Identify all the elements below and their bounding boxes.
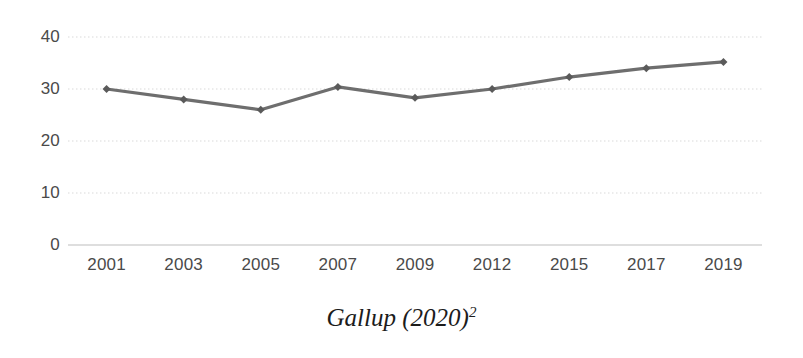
y-axis-tick-label: 30 — [14, 80, 60, 97]
x-axis-tick-label: 2019 — [688, 256, 758, 273]
data-markers-group — [103, 58, 728, 114]
x-axis-tick-label: 2017 — [611, 256, 681, 273]
chart-plot-area — [0, 0, 803, 296]
y-axis-tick-label: 20 — [14, 132, 60, 149]
y-axis-tick-labels: 010203040 — [8, 0, 60, 296]
y-axis-tick-label: 10 — [14, 184, 60, 201]
caption-superscript: 2 — [469, 304, 477, 320]
data-point-marker — [719, 58, 727, 66]
x-axis-tick-labels: 200120032005200720092012201520172019 — [0, 256, 803, 286]
caption-text: Gallup (2020) — [327, 304, 469, 331]
x-axis-tick-label: 2001 — [72, 256, 142, 273]
data-line-group — [107, 62, 724, 110]
data-point-marker — [257, 106, 265, 114]
x-axis-tick-label: 2007 — [303, 256, 373, 273]
x-axis-tick-label: 2005 — [226, 256, 296, 273]
data-point-marker — [334, 83, 342, 91]
data-point-marker — [103, 85, 111, 93]
x-axis-tick-label: 2012 — [457, 256, 527, 273]
line-chart-svg — [0, 0, 803, 296]
x-axis-tick-label: 2009 — [380, 256, 450, 273]
data-point-marker — [411, 94, 419, 102]
x-axis-tick-label: 2003 — [149, 256, 219, 273]
chart-figure: 010203040 200120032005200720092012201520… — [0, 0, 803, 358]
y-axis-tick-label: 0 — [14, 236, 60, 253]
y-axis-tick-label: 40 — [14, 28, 60, 45]
data-line — [107, 62, 724, 110]
data-point-marker — [565, 73, 573, 81]
data-point-marker — [488, 85, 496, 93]
x-axis-tick-label: 2015 — [534, 256, 604, 273]
data-point-marker — [642, 64, 650, 72]
data-point-marker — [180, 95, 188, 103]
figure-caption: Gallup (2020)2 — [0, 304, 803, 332]
